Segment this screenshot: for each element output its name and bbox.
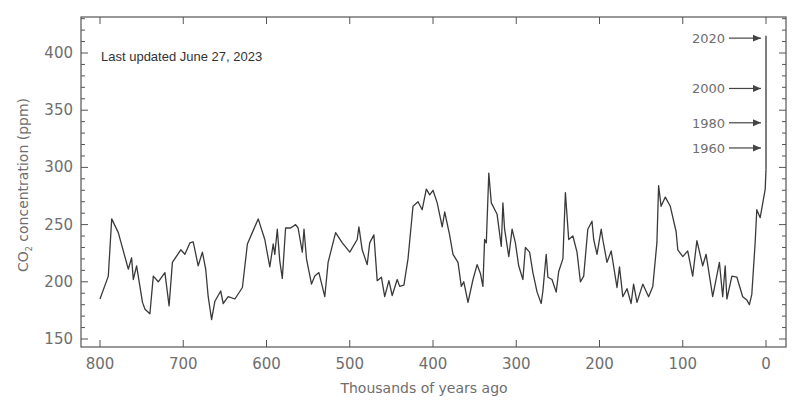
x-tick-label: 700 <box>169 355 198 373</box>
y-axis-title-co: CO <box>15 251 31 272</box>
y-tick-label: 200 <box>44 273 73 291</box>
year-label-1980: 1980 <box>692 116 725 131</box>
y-tick-label: 250 <box>44 216 73 234</box>
y-axis-title-rest: concentration (ppm) <box>15 98 31 246</box>
last-updated-annotation: Last updated June 27, 2023 <box>101 49 262 64</box>
plot-border <box>81 17 786 347</box>
x-tick-label: 800 <box>86 355 115 373</box>
y-axis: 150200250300350400 <box>44 19 786 348</box>
x-tick-label: 200 <box>585 355 614 373</box>
y-tick-label: 400 <box>44 44 73 62</box>
x-tick-label: 600 <box>252 355 281 373</box>
x-tick-label: 500 <box>335 355 364 373</box>
year-markers: 2020200019801960 <box>692 31 761 156</box>
x-tick-label: 100 <box>668 355 697 373</box>
x-axis-title: Thousands of years ago <box>339 380 507 396</box>
year-label-2020: 2020 <box>692 31 725 46</box>
y-tick-label: 150 <box>44 330 73 348</box>
y-axis-title: CO2 concentration (ppm) <box>15 98 34 272</box>
y-tick-label: 300 <box>44 158 73 176</box>
x-axis: 8007006005004003002001000 <box>86 17 771 373</box>
year-label-2000: 2000 <box>692 81 725 96</box>
series-group <box>100 36 766 320</box>
x-tick-label: 300 <box>502 355 531 373</box>
y-tick-label: 350 <box>44 101 73 119</box>
x-tick-label: 400 <box>419 355 448 373</box>
co2-chart: 150200250300350400 800700600500400300200… <box>0 0 803 409</box>
ice-core-co2-line <box>100 170 766 320</box>
plot-frame <box>81 17 786 347</box>
x-tick-label: 0 <box>761 355 771 373</box>
year-label-1960: 1960 <box>692 141 725 156</box>
